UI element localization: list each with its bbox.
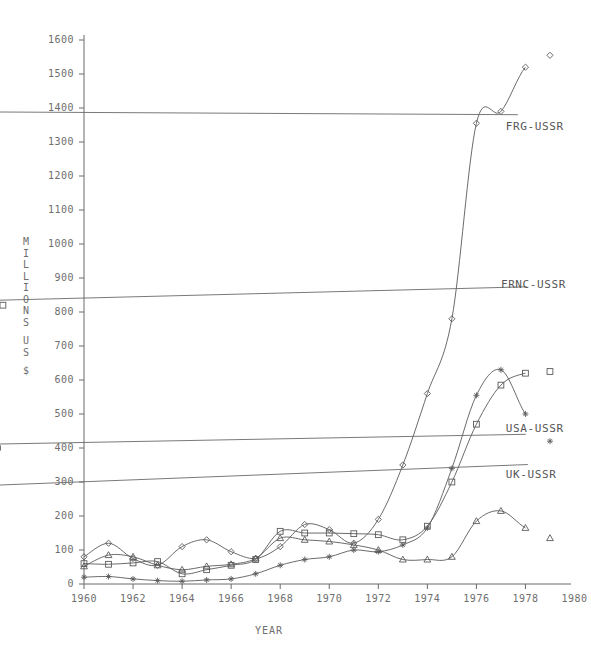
marker-square: [0, 302, 6, 308]
marker-diamond: [547, 52, 553, 58]
x-tick-label: 1978: [505, 593, 545, 604]
y-axis-title-char: L: [18, 259, 34, 271]
series-group: [0, 52, 553, 584]
x-tick-label: 1976: [456, 593, 496, 604]
series-line: [84, 67, 525, 566]
y-tick-label: 500: [32, 408, 74, 419]
x-tick-label: 1972: [358, 593, 398, 604]
y-tick-label: 1200: [32, 170, 74, 181]
y-tick-label: 0: [32, 578, 74, 589]
series-leader-line: [0, 112, 518, 115]
series-label-frnc-ussr: FRNC-USSR: [501, 278, 566, 291]
x-tick-label: 1960: [64, 593, 104, 604]
x-tick-label: 1962: [113, 593, 153, 604]
series-label-usa-ussr: USA-USSR: [506, 422, 564, 435]
y-tick-label: 1400: [32, 102, 74, 113]
series-leader-line: [0, 287, 527, 300]
y-axis-title-char: U: [18, 335, 34, 347]
x-tick-label: 1970: [309, 593, 349, 604]
y-axis-title-char: I: [18, 248, 34, 260]
y-axis-title-char: M: [18, 236, 34, 248]
y-tick-label: 300: [32, 476, 74, 487]
y-axis-title-char: I: [18, 282, 34, 294]
series-leader-lines: [0, 112, 528, 485]
y-axis-title-char: O: [18, 294, 34, 306]
marker-square: [547, 369, 553, 375]
y-tick-label: 1500: [32, 68, 74, 79]
series-line: [84, 373, 525, 574]
x-tick-label: 1966: [211, 593, 251, 604]
y-axis-title-char: S: [18, 317, 34, 329]
y-axis-title-char: L: [18, 271, 34, 283]
y-axis-title-char: [18, 358, 34, 365]
x-tick-label: 1964: [162, 593, 202, 604]
y-tick-label: 700: [32, 340, 74, 351]
series-label-frg-ussr: FRG-USSR: [506, 120, 564, 133]
x-axis-title: YEAR: [255, 625, 283, 636]
series-label-uk-ussr: UK-USSR: [506, 468, 557, 481]
y-tick-label: 100: [32, 544, 74, 555]
y-axis-title-char: [18, 328, 34, 335]
y-tick-label: 600: [32, 374, 74, 385]
x-tick-label: 1974: [407, 593, 447, 604]
y-tick-label: 200: [32, 510, 74, 521]
y-tick-label: 1300: [32, 136, 74, 147]
x-tick-label: 1980: [555, 593, 591, 604]
series-uk-ussr: [81, 508, 554, 573]
axes-group: [79, 35, 571, 589]
y-axis-title-char: S: [18, 347, 34, 359]
series-line: [84, 369, 525, 581]
y-tick-label: 800: [32, 306, 74, 317]
y-axis-title-char: N: [18, 305, 34, 317]
y-axis-title: MILLIONSUS$: [18, 236, 34, 377]
series-usa-ussr: [0, 367, 553, 584]
y-tick-label: 1100: [32, 204, 74, 215]
series-leader-line: [0, 434, 526, 444]
x-tick-label: 1968: [260, 593, 300, 604]
series-frnc-ussr: [0, 302, 553, 576]
marker-triangle: [547, 535, 554, 541]
y-tick-label: 900: [32, 272, 74, 283]
y-axis-title-char: $: [18, 365, 34, 377]
y-tick-label: 1000: [32, 238, 74, 249]
y-tick-label: 1600: [32, 34, 74, 45]
y-tick-label: 400: [32, 442, 74, 453]
series-frg-ussr: [81, 52, 553, 568]
